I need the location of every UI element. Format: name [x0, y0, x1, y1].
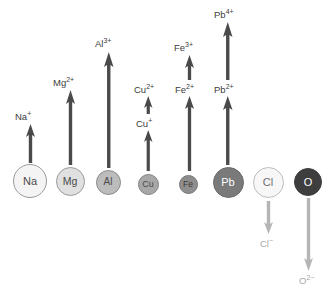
- atom-symbol-cu: Cu: [142, 180, 154, 189]
- ion-charge: 2+: [226, 83, 234, 90]
- arrow-head-shaft: [223, 22, 233, 80]
- arrow-head-shaft: [264, 201, 273, 234]
- atom-circle-fe: Fe: [179, 175, 198, 194]
- ion-charge: 4+: [226, 8, 234, 15]
- arrow-copper-ii-ion: [144, 96, 153, 114]
- ion-base-symbol: Fe: [175, 84, 186, 95]
- ion-charge: 2+: [66, 76, 74, 83]
- arrow-head-shaft: [223, 96, 233, 165]
- arrow-iron-iii-ion: [185, 55, 194, 80]
- atom-circle-al: Al: [96, 170, 121, 195]
- ion-charge: +: [148, 117, 152, 124]
- arrow-head-shaft: [304, 198, 313, 271]
- label-aluminium-ion: Al3+: [95, 39, 111, 49]
- label-lead-iv-ion: Pb4+: [214, 10, 234, 20]
- ion-base-symbol: Fe: [174, 42, 185, 53]
- atom-circle-cu: Cu: [138, 174, 159, 195]
- ion-charge: 2−: [306, 274, 314, 281]
- atom-symbol-al: Al: [104, 177, 113, 187]
- label-copper-ii-ion: Cu2+: [134, 85, 154, 95]
- label-iron-ii-ion: Fe2+: [175, 85, 194, 95]
- label-sodium-ion: Na+: [15, 112, 31, 122]
- ion-base-symbol: Na: [15, 111, 27, 122]
- arrow-head-shaft: [144, 130, 153, 171]
- atom-circle-o: O: [294, 168, 322, 196]
- arrow-copper-i-ion: [144, 130, 153, 171]
- arrow-iron-ii-ion: [185, 96, 194, 171]
- arrow-head-shaft: [26, 124, 35, 163]
- arrow-lead-iv-ion: [223, 22, 233, 80]
- ion-charge: 3+: [185, 41, 193, 48]
- atom-symbol-mg: Mg: [63, 176, 78, 187]
- ion-formation-diagram: Na+Mg2+Al3+Cu+Cu2+Fe2+Fe3+Pb2+Pb4+Cl−O2−…: [0, 0, 333, 293]
- ion-base-symbol: Pb: [214, 84, 226, 95]
- atom-symbol-o: O: [304, 177, 313, 188]
- arrow-head-shaft: [144, 96, 153, 114]
- arrow-head-shaft: [66, 90, 75, 165]
- ion-base-symbol: Pb: [214, 9, 226, 20]
- label-magnesium-ion: Mg2+: [53, 78, 74, 88]
- ion-base-symbol: Cu: [136, 118, 148, 129]
- label-iron-iii-ion: Fe3+: [174, 43, 193, 53]
- arrow-aluminium-ion: [104, 52, 114, 168]
- ion-base-symbol: Mg: [53, 77, 66, 88]
- atom-symbol-pb: Pb: [221, 177, 234, 188]
- atom-symbol-cl: Cl: [263, 177, 273, 188]
- arrow-chloride-ion: [264, 201, 273, 234]
- arrow-sodium-ion: [26, 124, 35, 163]
- ion-base-symbol: Cl: [260, 238, 269, 249]
- arrow-magnesium-ion: [66, 90, 75, 165]
- arrow-oxide-ion: [304, 198, 313, 271]
- ion-charge: −: [269, 237, 273, 244]
- atom-circle-na: Na: [13, 164, 47, 198]
- ion-charge: 2+: [146, 83, 154, 90]
- arrow-head-shaft: [104, 52, 114, 168]
- ion-base-symbol: Cu: [134, 84, 146, 95]
- ion-charge: +: [27, 110, 31, 117]
- atom-circle-pb: Pb: [213, 167, 244, 198]
- arrow-head-shaft: [185, 55, 194, 80]
- atom-symbol-na: Na: [23, 176, 37, 187]
- arrow-head-shaft: [185, 96, 194, 171]
- atom-symbol-fe: Fe: [183, 180, 193, 189]
- atom-circle-cl: Cl: [253, 167, 284, 198]
- label-oxide-ion: O2−: [299, 276, 314, 286]
- label-lead-ii-ion: Pb2+: [214, 85, 234, 95]
- label-copper-i-ion: Cu+: [136, 119, 152, 129]
- label-chloride-ion: Cl−: [260, 239, 273, 249]
- atom-circle-mg: Mg: [56, 167, 85, 196]
- ion-charge: 2+: [186, 83, 194, 90]
- arrow-lead-ii-ion: [223, 96, 233, 165]
- ion-charge: 3+: [103, 37, 111, 44]
